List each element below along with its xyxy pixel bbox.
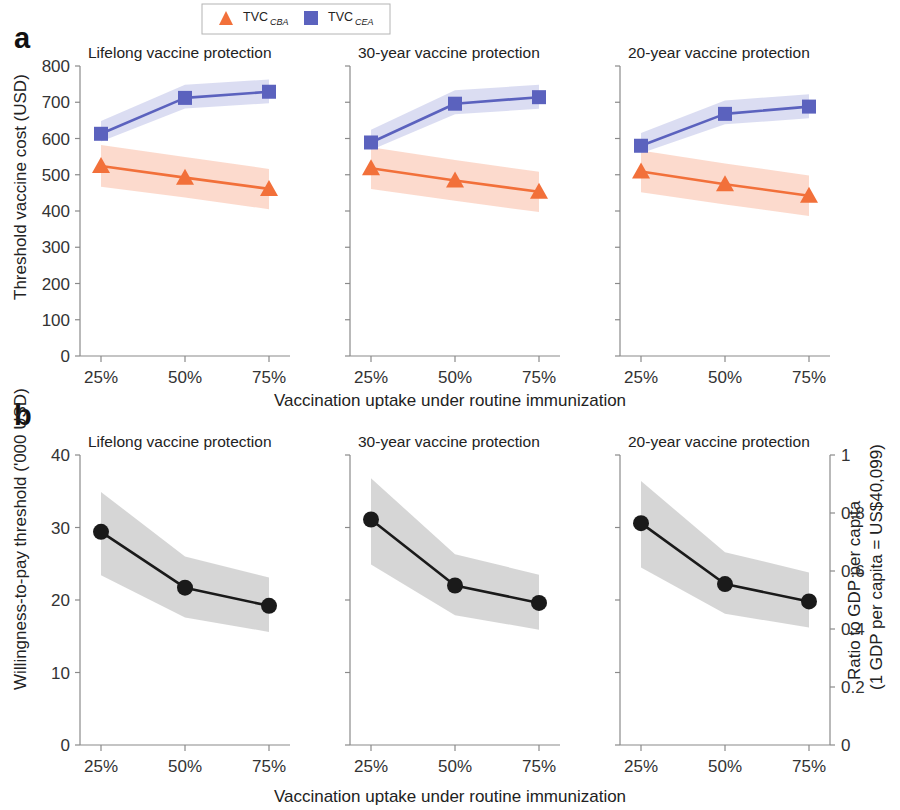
x-tick-label-b: 25%: [624, 757, 658, 776]
data-point-circle: [93, 524, 109, 540]
y-tick-label-a: 0: [61, 347, 70, 366]
panel-a-x-axis-title: Vaccination uptake under routine immuniz…: [274, 391, 626, 410]
data-point-square: [532, 90, 546, 104]
threshold-vaccine-cost-figure: a b TVC CBA TVC CEA Threshold vaccine co…: [0, 0, 900, 810]
data-point-circle: [261, 598, 277, 614]
data-point-square: [718, 107, 732, 121]
x-tick-label-a: 75%: [792, 368, 826, 387]
y2-tick-label: 1: [841, 446, 850, 465]
legend-label-tvc-cba-base: TVC: [243, 10, 268, 24]
x-tick-label-b: 50%: [168, 757, 202, 776]
y-tick-label-a: 700: [42, 93, 70, 112]
data-point-square: [448, 97, 462, 111]
x-tick-label-a: 25%: [84, 368, 118, 387]
panel-b-y-axis-title: Willingness-to-pay threshold ('000 USD): [11, 388, 30, 690]
y-tick-label-a: 800: [42, 57, 70, 76]
x-tick-label-b: 50%: [438, 757, 472, 776]
subplot-title-a-3: 20-year vaccine protection: [628, 44, 810, 61]
y2-tick-label: 0: [841, 736, 850, 755]
y2-tick-label: 0.4: [841, 620, 865, 639]
x-tick-label-b: 50%: [708, 757, 742, 776]
data-point-square: [802, 100, 816, 114]
x-tick-label-a: 25%: [354, 368, 388, 387]
panel-b-x-axis-title: Vaccination uptake under routine immuniz…: [274, 787, 626, 806]
data-point-circle: [717, 576, 733, 592]
subplot-title-b-3: 20-year vaccine protection: [628, 433, 810, 450]
legend: TVC CBA TVC CEA: [202, 4, 390, 34]
subplot-title-a-1: Lifelong vaccine protection: [88, 44, 272, 61]
x-tick-label-b: 75%: [252, 757, 286, 776]
x-tick-label-b: 25%: [84, 757, 118, 776]
x-tick-label-b: 25%: [354, 757, 388, 776]
subplot-title-b-1: Lifelong vaccine protection: [88, 433, 272, 450]
x-tick-label-a: 50%: [438, 368, 472, 387]
data-point-circle: [447, 578, 463, 594]
x-tick-label-b: 75%: [522, 757, 556, 776]
y-tick-label-a: 100: [42, 311, 70, 330]
data-point-circle: [363, 512, 379, 528]
panel-letter-a: a: [14, 22, 31, 54]
y2-tick-label: 0.6: [841, 562, 865, 581]
y-tick-label-a: 300: [42, 238, 70, 257]
legend-label-tvc-cea-sub: CEA: [355, 17, 374, 27]
y-tick-label-a: 500: [42, 166, 70, 185]
x-tick-label-a: 50%: [168, 368, 202, 387]
legend-label-tvc-cba-sub: CBA: [270, 17, 289, 27]
y-tick-label-a: 200: [42, 275, 70, 294]
data-point-square: [178, 91, 192, 105]
y-tick-label-b: 0: [61, 736, 70, 755]
x-tick-label-a: 25%: [624, 368, 658, 387]
data-point-circle: [177, 580, 193, 596]
y-tick-label-b: 40: [51, 446, 70, 465]
panel-b-y2-axis-title-line1: Ratio to GDP per capita: [845, 500, 864, 680]
square-marker-icon: [304, 11, 318, 25]
data-point-square: [94, 127, 108, 141]
x-tick-label-b: 75%: [792, 757, 826, 776]
y2-tick-label: 0.2: [841, 678, 865, 697]
y-tick-label-b: 20: [51, 591, 70, 610]
y-tick-label-a: 400: [42, 202, 70, 221]
data-point-circle: [633, 515, 649, 531]
panel-b-y2-axis-title-line2: (1 GDP per capita = US$40,099): [867, 444, 886, 690]
y-tick-label-b: 10: [51, 664, 70, 683]
x-tick-label-a: 75%: [522, 368, 556, 387]
subplot-title-b-2: 30-year vaccine protection: [358, 433, 540, 450]
data-point-square: [364, 135, 378, 149]
data-point-square: [634, 139, 648, 153]
data-point-circle: [801, 593, 817, 609]
data-point-circle: [531, 595, 547, 611]
figure-root: a b TVC CBA TVC CEA Threshold vaccine co…: [0, 0, 900, 810]
x-tick-label-a: 50%: [708, 368, 742, 387]
y2-tick-label: 0.8: [841, 504, 865, 523]
y-tick-label-a: 600: [42, 130, 70, 149]
panel-a-y-axis-title: Threshold vaccine cost (USD): [11, 74, 30, 300]
data-point-square: [262, 85, 276, 99]
legend-label-tvc-cea-base: TVC: [328, 10, 353, 24]
subplot-title-a-2: 30-year vaccine protection: [358, 44, 540, 61]
y-tick-label-b: 30: [51, 519, 70, 538]
x-tick-label-a: 75%: [252, 368, 286, 387]
